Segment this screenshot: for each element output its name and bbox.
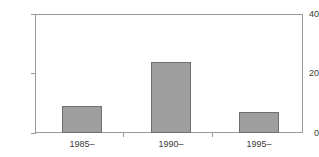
- y-axis-tick-label-20: 20: [291, 69, 319, 78]
- bar-1995: [239, 112, 279, 133]
- y-axis-tick-mark-40: [31, 14, 36, 15]
- bar-chart: 40 20 0 1985– 1990– 1995–: [0, 0, 319, 157]
- bar-1990: [151, 62, 191, 133]
- x-axis-label-1990: 1990–: [141, 139, 201, 149]
- y-axis-tick-mark-20: [31, 73, 36, 74]
- x-axis-label-1985: 1985–: [52, 139, 112, 149]
- y-axis-tick-mark-0: [31, 133, 36, 134]
- x-axis-tick-mark-2: [212, 133, 213, 137]
- y-axis-tick-label-40: 40: [291, 10, 319, 19]
- x-axis-tick-mark-1: [123, 133, 124, 137]
- x-axis-label-1995: 1995–: [229, 139, 289, 149]
- bar-1985: [62, 106, 102, 133]
- y-axis-tick-label-0: 0: [291, 129, 319, 138]
